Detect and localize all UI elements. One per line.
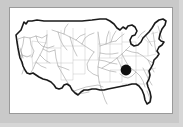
map-panel (9, 7, 173, 114)
figure-root (0, 0, 183, 127)
us-map-svg (10, 8, 172, 113)
location-dot-marker[interactable] (121, 65, 132, 76)
state-boundaries-layer (18, 28, 158, 84)
national-outline-layer (16, 19, 166, 104)
us-mainland-outline (16, 19, 166, 104)
outer-right-edge (179, 0, 183, 127)
outer-bottom-edge (0, 123, 183, 127)
rivers-layer (18, 24, 162, 104)
